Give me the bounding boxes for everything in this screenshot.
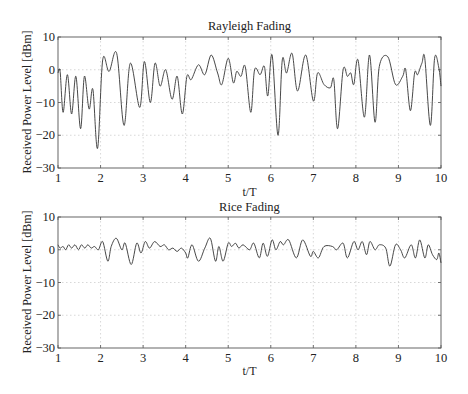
rayleigh-x-tick-label: 10 [435,171,448,185]
rayleigh-x-tick-label: 6 [268,171,274,185]
rice-title: Rice Fading [219,200,281,214]
rayleigh-x-tick-label: 7 [310,171,316,185]
rice-x-tick-label: 6 [268,351,274,365]
rayleigh-series-line [58,52,441,149]
rayleigh-y-axis-label: Received Power Level [dBm] [20,31,34,174]
rayleigh-x-tick-label: 4 [183,171,190,185]
rayleigh-ticks: 12345678910−30−20−10010 [35,30,447,185]
rice-ticks: 12345678910−30−20−10010 [35,210,447,365]
rayleigh-y-tick-label: −10 [35,96,55,110]
rice-x-tick-label: 5 [225,351,231,365]
rice-series-line [58,238,441,266]
rice-x-tick-label: 2 [97,351,103,365]
rayleigh-y-tick-label: −20 [35,128,55,142]
rice-x-tick-label: 10 [435,351,448,365]
rice-x-axis-label: t/T [243,364,258,378]
rayleigh-x-tick-label: 8 [353,171,359,185]
rice-grid [58,217,441,348]
rayleigh-y-tick-label: 0 [49,63,55,77]
rayleigh-x-tick-label: 5 [225,171,231,185]
rice-x-tick-label: 1 [55,351,61,365]
rice-y-tick-label: 0 [49,243,55,257]
rayleigh-x-tick-label: 1 [55,171,61,185]
rice-y-tick-label: −30 [35,341,55,355]
rice-y-tick-label: −10 [35,276,55,290]
rice-y-tick-label: 10 [43,210,56,224]
rice-x-tick-label: 7 [310,351,316,365]
rice-plot: 12345678910−30−20−10010 Rice Fading t/T … [20,200,447,378]
rice-y-tick-label: −20 [35,308,55,322]
rayleigh-y-tick-label: 10 [43,30,56,44]
rice-x-tick-label: 3 [140,351,146,365]
rayleigh-x-axis-label: t/T [243,185,258,199]
rayleigh-y-tick-label: −30 [35,161,55,175]
rice-x-tick-label: 4 [183,351,190,365]
rice-y-axis-label: Received Power Level [dBm] [20,211,34,354]
figure: 12345678910−30−20−10010 Rayleigh Fading … [0,0,468,394]
rice-x-tick-label: 9 [395,351,401,365]
rayleigh-x-tick-label: 3 [140,171,146,185]
rayleigh-title: Rayleigh Fading [208,19,292,33]
rice-x-tick-label: 8 [353,351,359,365]
rayleigh-x-tick-label: 9 [395,171,401,185]
rayleigh-x-tick-label: 2 [97,171,103,185]
rayleigh-plot: 12345678910−30−20−10010 Rayleigh Fading … [20,19,447,199]
